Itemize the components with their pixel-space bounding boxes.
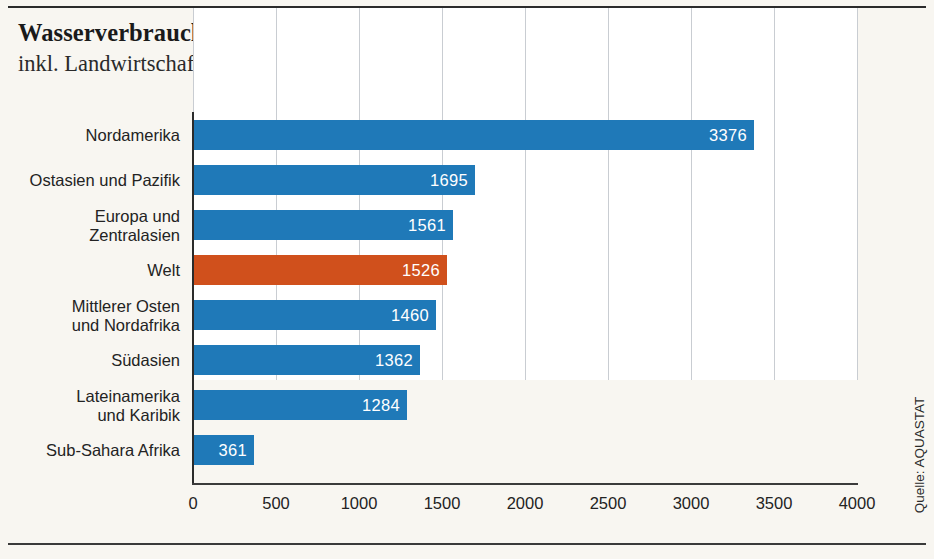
- bar-row: Mittlerer Osten und Nordafrika1460: [0, 293, 934, 338]
- category-label: Südasien: [0, 351, 180, 370]
- bar[interactable]: 1695: [194, 165, 475, 195]
- x-tick-label: 0: [188, 494, 197, 513]
- bar-row: Welt1526: [0, 248, 934, 293]
- bar-row: Ostasien und Pazifik1695: [0, 158, 934, 203]
- bar-row: Europa und Zentralasien1561: [0, 203, 934, 248]
- bar-value-label: 361: [219, 441, 247, 460]
- chart-figure: Wasserverbrauch pro Person und Tag, 2020…: [0, 0, 934, 559]
- category-label: Nordamerika: [0, 126, 180, 145]
- bar[interactable]: 3376: [194, 120, 754, 150]
- category-label: Lateinamerika und Karibik: [0, 386, 180, 425]
- bottom-divider-rule: [8, 543, 926, 545]
- x-tick-label: 2500: [590, 494, 627, 513]
- bar-value-label: 3376: [709, 126, 747, 145]
- bar-row: Lateinamerika und Karibik1284: [0, 383, 934, 428]
- bar-value-label: 1561: [408, 216, 446, 235]
- x-tick-label: 4000: [839, 494, 876, 513]
- bar-value-label: 1695: [430, 171, 468, 190]
- bar[interactable]: 1561: [194, 210, 453, 240]
- x-axis-line: [192, 483, 858, 485]
- bar-value-label: 1284: [362, 396, 400, 415]
- bar[interactable]: 1460: [194, 300, 436, 330]
- bar-row: Sub-Sahara Afrika361: [0, 428, 934, 473]
- bar[interactable]: 1362: [194, 345, 420, 375]
- x-tick-label: 2000: [507, 494, 544, 513]
- x-tick-label: 1000: [341, 494, 378, 513]
- category-label: Mittlerer Osten und Nordafrika: [0, 296, 180, 335]
- bar[interactable]: 361: [194, 435, 254, 465]
- x-tick-label: 3000: [673, 494, 710, 513]
- category-label: Europa und Zentralasien: [0, 206, 180, 245]
- source-note: Quelle: AQUASTAT: [908, 375, 930, 535]
- bar-row: Nordamerika3376: [0, 113, 934, 158]
- x-tick-label: 3500: [756, 494, 793, 513]
- bar-value-label: 1362: [375, 351, 413, 370]
- category-label: Sub-Sahara Afrika: [0, 441, 180, 460]
- bar-value-label: 1526: [402, 261, 440, 280]
- bar-row: Südasien1362: [0, 338, 934, 383]
- source-note-label: Quelle: AQUASTAT: [912, 397, 927, 514]
- bar[interactable]: 1284: [194, 390, 407, 420]
- x-tick-label: 500: [262, 494, 290, 513]
- bar-value-label: 1460: [391, 306, 429, 325]
- x-tick-label: 1500: [424, 494, 461, 513]
- x-axis-tick-labels: 05001000150020002500300035004000: [0, 494, 934, 518]
- category-label: Ostasien und Pazifik: [0, 171, 180, 190]
- category-label: Welt: [0, 261, 180, 280]
- bar[interactable]: 1526: [194, 255, 447, 285]
